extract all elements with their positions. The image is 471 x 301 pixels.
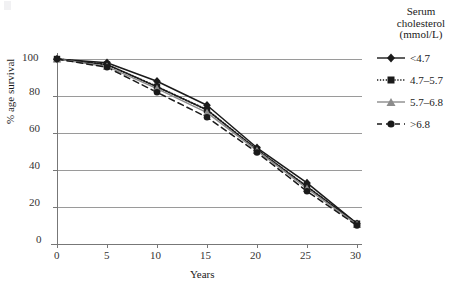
x-tick-label-5: 5 (104, 249, 110, 261)
axis-ticks (53, 59, 357, 248)
x-tick-label-10: 10 (150, 249, 161, 261)
legend-entry-lt-4-7[interactable]: <4.7 (376, 47, 470, 69)
y-tick-label-100: 100 (22, 51, 39, 63)
legend-swatch-diamond-icon (376, 51, 406, 65)
legend-entry-gt-6-8[interactable]: >6.8 (376, 113, 470, 135)
y-tick-label-20: 20 (29, 196, 40, 208)
x-tick-label-25: 25 (300, 249, 311, 261)
legend-label-gt-6-8: >6.8 (410, 118, 430, 130)
data-point (354, 222, 361, 229)
legend-label-5-7-6-8: 5.7–6.8 (410, 96, 443, 108)
data-point (304, 188, 311, 195)
legend-swatch-circle-icon (376, 117, 406, 131)
data-point (54, 56, 61, 63)
x-tick-label-15: 15 (200, 249, 211, 261)
series-lines (57, 59, 357, 226)
series-line-0 (57, 59, 357, 224)
legend-entry-5-7-6-8[interactable]: 5.7–6.8 (376, 91, 470, 113)
legend-title: Serum cholesterol (mmol/L) (372, 6, 470, 41)
legend: Serum cholesterol (mmol/L) <4.7 4.7–5.7 (372, 6, 470, 135)
data-point (254, 149, 261, 156)
legend-title-line-3: (mmol/L) (372, 29, 470, 41)
legend-label-4-7-5-7: 4.7–5.7 (410, 74, 443, 86)
gridlines (57, 59, 362, 207)
x-tick-label-0: 0 (54, 249, 60, 261)
legend-swatch-triangle-icon (376, 95, 406, 109)
x-tick-label-20: 20 (250, 249, 261, 261)
legend-entry-4-7-5-7[interactable]: 4.7–5.7 (376, 69, 470, 91)
y-tick-label-80: 80 (29, 85, 40, 97)
series-line-3 (57, 59, 357, 226)
y-axis-title: % age survival (4, 59, 16, 124)
axis-lines (51, 53, 362, 244)
x-axis-title: Years (190, 268, 215, 280)
data-point (204, 114, 211, 121)
legend-title-line-1: Serum (372, 6, 470, 18)
x-tick-label-30: 30 (350, 249, 361, 261)
series-line-1 (57, 59, 357, 224)
y-tick-label-40: 40 (29, 159, 40, 171)
survival-chart-figure: 100 80 60 40 20 0 0 5 10 15 20 25 30 % a… (0, 0, 471, 301)
y-tick-label-0: 0 (36, 233, 42, 245)
data-point (154, 89, 161, 96)
y-tick-label-60: 60 (29, 122, 40, 134)
legend-swatch-square-icon (376, 73, 406, 87)
series-line-2 (57, 59, 357, 225)
series-markers (53, 55, 361, 229)
data-point (104, 64, 111, 71)
legend-label-lt-4-7: <4.7 (410, 52, 430, 64)
